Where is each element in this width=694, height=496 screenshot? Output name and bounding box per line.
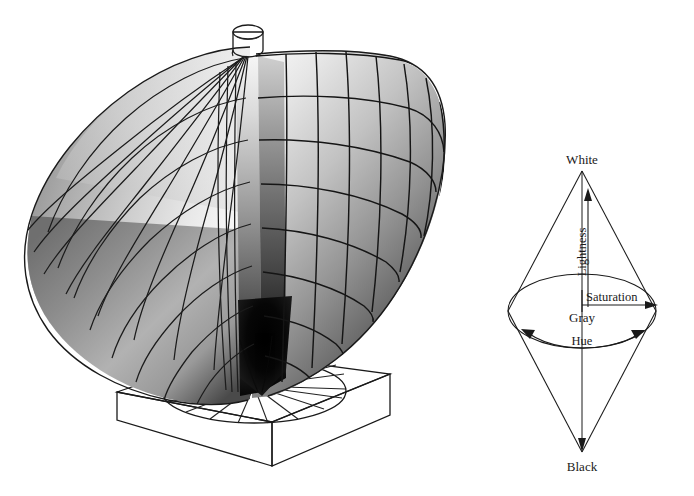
figure-svg: White Black Gray Saturation Hue Lightnes… [0,0,694,496]
lightness-arrowhead [584,188,592,201]
figure-root: White Black Gray Saturation Hue Lightnes… [0,0,694,496]
label-lightness: Lightness [575,228,589,277]
cone-bottom-right-edge [582,311,656,452]
cone-top-left-edge [508,171,582,311]
cone-bottom-left-edge [508,311,582,452]
label-hue: Hue [572,334,593,348]
axis-arrowhead-black [578,438,586,452]
hsl-bicone-panel: White Black Gray Saturation Hue Lightnes… [508,152,658,474]
label-black: Black [567,459,598,474]
label-white: White [566,152,598,167]
color-solid-panel [25,25,446,466]
label-gray: Gray [569,310,595,325]
color-solid-body [27,47,445,412]
